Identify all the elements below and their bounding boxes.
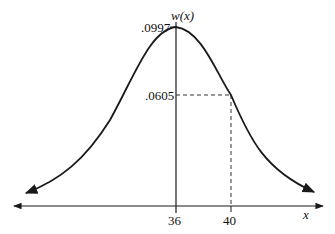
x-axis-label: x [303,208,309,221]
tick-label-36: 36 [168,214,181,227]
tick-label-40: 40 [223,214,236,227]
y-axis-label: w(x) [171,9,194,22]
peak-value-label: .0997 [141,21,170,34]
density-curve [26,27,314,193]
normal-curve-chart [0,0,335,234]
mid-value-label: .0605 [145,89,174,102]
